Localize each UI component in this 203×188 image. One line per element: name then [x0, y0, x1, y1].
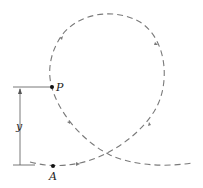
height-label: y	[15, 120, 23, 133]
arrow-icon	[148, 122, 151, 126]
point-p-marker	[50, 85, 54, 89]
loop-diagram: P A y	[0, 0, 203, 188]
point-a-label: A	[48, 170, 57, 183]
arrow-icon	[76, 162, 80, 166]
arrow-up-icon	[18, 88, 22, 94]
point-a-marker	[51, 164, 55, 168]
arrow-icon	[60, 36, 63, 40]
arrow-icon	[67, 121, 70, 124]
trajectory-path	[30, 14, 192, 166]
point-p-label: P	[55, 81, 64, 94]
